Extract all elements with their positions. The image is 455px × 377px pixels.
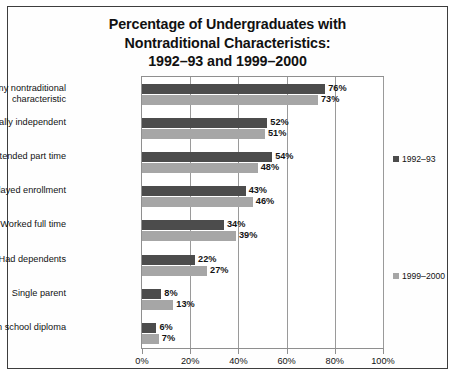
x-tick-label: 80% [326, 356, 344, 366]
bar-row: 54%48% [142, 147, 383, 181]
bar-value-label: 7% [162, 333, 175, 343]
plot-area: 76%73%52%51%54%48%43%46%34%39%22%27%8%13… [141, 76, 384, 349]
chart-figure: Percentage of Undergraduates with Nontra… [7, 6, 448, 369]
bar-value-label: 27% [210, 265, 228, 275]
category-label: Financially independent [0, 117, 66, 128]
bar-value-label: 54% [275, 151, 293, 161]
bar-value-label: 52% [270, 117, 288, 127]
x-tick-label: 20% [181, 356, 199, 366]
bar-row: 52%51% [142, 113, 383, 147]
bar-value-label: 22% [198, 254, 216, 264]
bar-1 [142, 220, 224, 230]
legend-item-2[interactable]: 1999–2000 [393, 271, 445, 281]
category-label: Delayed enrollment [0, 185, 66, 196]
x-tick-label: 100% [371, 356, 395, 366]
legend-swatch-icon [393, 273, 399, 279]
x-tick [383, 349, 384, 354]
bar-row: 6%7% [142, 318, 383, 352]
bar-value-label: 76% [328, 83, 346, 93]
bar-1 [142, 323, 156, 333]
bar-value-label: 6% [159, 322, 172, 332]
bar-2 [142, 197, 253, 207]
bar-1 [142, 186, 246, 196]
x-axis: 0%20%40%60%80%100% [141, 349, 384, 371]
chart-title-line-1: Percentage of Undergraduates with [8, 15, 447, 34]
chart-title-line-3: 1992–93 and 1999–2000 [8, 52, 447, 71]
bar-row: 43%46% [142, 181, 383, 215]
bar-1 [142, 255, 195, 265]
category-label: Single parent [0, 288, 66, 299]
category-label: Attended part time [0, 151, 66, 162]
bar-1 [142, 84, 325, 94]
legend-label: 1999–2000 [402, 271, 445, 281]
x-tick-label: 40% [229, 356, 247, 366]
bar-2 [142, 266, 207, 276]
bar-value-label: 46% [256, 196, 274, 206]
bar-row: 22%27% [142, 250, 383, 284]
bar-value-label: 8% [164, 288, 177, 298]
bar-2 [142, 334, 159, 344]
x-tick-label: 0% [135, 356, 148, 366]
x-tick-label: 60% [277, 356, 295, 366]
x-tick [238, 349, 239, 354]
bar-value-label: 13% [176, 299, 194, 309]
legend-swatch-icon [393, 156, 399, 162]
x-tick [190, 349, 191, 354]
bar-2 [142, 163, 258, 173]
bar-value-label: 34% [227, 219, 245, 229]
legend-item-1[interactable]: 1992–93 [393, 154, 435, 164]
bar-1 [142, 152, 272, 162]
bar-2 [142, 300, 173, 310]
gridline-100 [383, 77, 384, 348]
bar-value-label: 39% [239, 230, 257, 240]
x-tick [335, 349, 336, 354]
category-label: Worked full time [0, 219, 66, 230]
bar-1 [142, 118, 267, 128]
chart-title: Percentage of Undergraduates with Nontra… [8, 15, 447, 71]
bar-2 [142, 129, 265, 139]
bar-row: 8%13% [142, 284, 383, 318]
bar-value-label: 73% [321, 94, 339, 104]
bar-2 [142, 95, 318, 105]
chart-title-line-2: Nontraditional Characteristics: [8, 34, 447, 53]
bar-row: 34%39% [142, 215, 383, 249]
x-tick [287, 349, 288, 354]
bar-1 [142, 289, 161, 299]
bar-2 [142, 231, 236, 241]
category-label: Any nontraditional characteristic [0, 83, 66, 106]
x-tick [142, 349, 143, 354]
legend-label: 1992–93 [402, 154, 435, 164]
bar-value-label: 48% [261, 162, 279, 172]
bar-value-label: 51% [268, 128, 286, 138]
category-label: Had dependents [0, 254, 66, 265]
bar-row: 76%73% [142, 79, 383, 113]
bar-value-label: 43% [249, 185, 267, 195]
category-label: No high school diploma [0, 322, 66, 333]
